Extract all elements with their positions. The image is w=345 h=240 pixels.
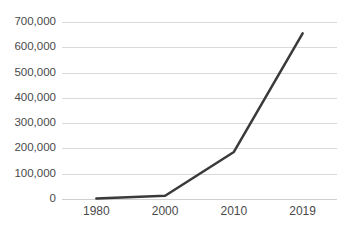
y-axis: 0100,000200,000300,000400,000500,000600,… (0, 0, 56, 240)
y-axis-tick-label: 700,000 (0, 16, 56, 28)
x-axis-tick-label: 1980 (83, 205, 110, 217)
x-axis: 1980200020102019 (62, 205, 337, 227)
plot-area (62, 22, 337, 199)
y-axis-tick-label: 400,000 (0, 92, 56, 104)
series-line (62, 22, 337, 199)
line-chart: 0100,000200,000300,000400,000500,000600,… (0, 0, 345, 240)
y-axis-tick-label: 300,000 (0, 117, 56, 129)
y-axis-tick-label: 600,000 (0, 42, 56, 54)
series-polyline (96, 33, 302, 198)
x-axis-tick-label: 2000 (152, 205, 179, 217)
x-axis-tick-label: 2019 (289, 205, 316, 217)
y-axis-tick-label: 0 (0, 193, 56, 205)
x-axis-tick-label: 2010 (221, 205, 248, 217)
y-axis-tick-label: 500,000 (0, 67, 56, 79)
y-axis-tick-label: 200,000 (0, 143, 56, 155)
y-axis-tick-label: 100,000 (0, 168, 56, 180)
